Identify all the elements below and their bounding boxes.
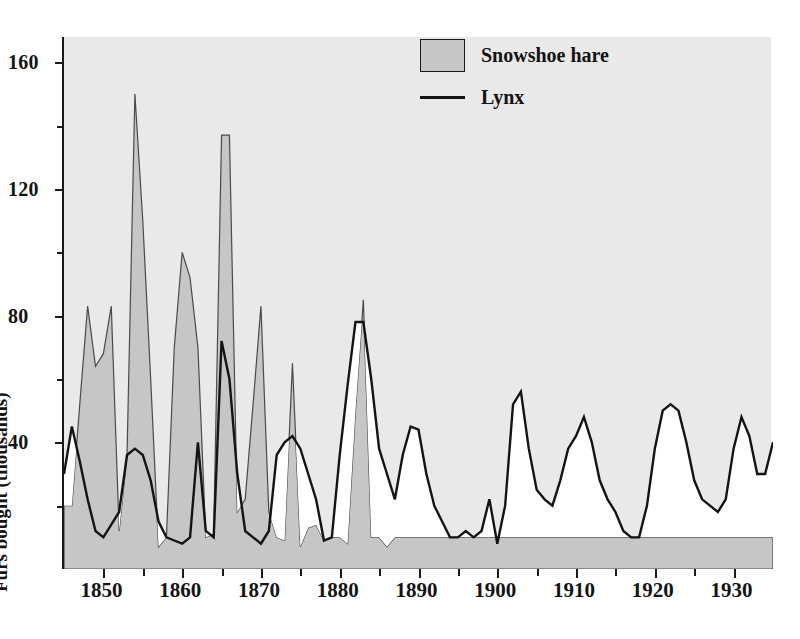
y-axis-title: Furs bought (thousands) bbox=[0, 564, 12, 592]
x-tick-major bbox=[734, 569, 736, 578]
y-tick-label: 40 bbox=[8, 431, 29, 454]
legend-item-lynx: Lynx bbox=[420, 76, 720, 118]
x-tick-minor bbox=[300, 569, 302, 576]
x-tick-label: 1860 bbox=[159, 578, 201, 603]
x-tick-major bbox=[103, 569, 105, 578]
y-tick-minor bbox=[57, 506, 64, 508]
chart-page: 4080120160 18501860187018801890190019101… bbox=[0, 0, 800, 639]
x-tick-label: 1910 bbox=[553, 578, 595, 603]
x-tick-minor bbox=[143, 569, 145, 576]
y-tick-label: 80 bbox=[8, 304, 29, 327]
x-tick-minor bbox=[222, 569, 224, 576]
y-tick-label: 160 bbox=[8, 51, 39, 74]
x-tick-label: 1850 bbox=[80, 578, 122, 603]
legend-label-lynx: Lynx bbox=[481, 86, 524, 109]
y-tick-minor bbox=[57, 252, 64, 254]
y-tick-major bbox=[55, 62, 64, 64]
x-tick-major bbox=[419, 569, 421, 578]
x-tick-minor bbox=[537, 569, 539, 576]
x-tick-major bbox=[655, 569, 657, 578]
x-tick-label: 1920 bbox=[632, 578, 674, 603]
chart-legend: Snowshoe hare Lynx bbox=[420, 34, 720, 118]
x-tick-minor bbox=[694, 569, 696, 576]
x-tick-major bbox=[182, 569, 184, 578]
x-tick-major bbox=[497, 569, 499, 578]
x-tick-major bbox=[261, 569, 263, 578]
x-tick-label: 1880 bbox=[317, 578, 359, 603]
x-tick-minor bbox=[379, 569, 381, 576]
y-tick-major bbox=[55, 316, 64, 318]
y-tick-major bbox=[55, 189, 64, 191]
y-tick-minor bbox=[57, 126, 64, 128]
x-tick-major bbox=[576, 569, 578, 578]
legend-item-snowshoe-hare: Snowshoe hare bbox=[420, 34, 720, 76]
hare-swatch-icon bbox=[420, 39, 465, 72]
x-tick-minor bbox=[458, 569, 460, 576]
x-tick-major bbox=[340, 569, 342, 578]
lynx-swatch-icon bbox=[420, 96, 465, 99]
y-tick-label: 120 bbox=[8, 178, 39, 201]
x-tick-minor bbox=[615, 569, 617, 576]
x-tick-label: 1890 bbox=[396, 578, 438, 603]
y-tick-major bbox=[55, 442, 64, 444]
x-tick-label: 1900 bbox=[474, 578, 516, 603]
legend-label-snowshoe-hare: Snowshoe hare bbox=[481, 44, 609, 67]
y-tick-minor bbox=[57, 379, 64, 381]
x-tick-label: 1870 bbox=[238, 578, 280, 603]
x-tick-label: 1930 bbox=[711, 578, 753, 603]
